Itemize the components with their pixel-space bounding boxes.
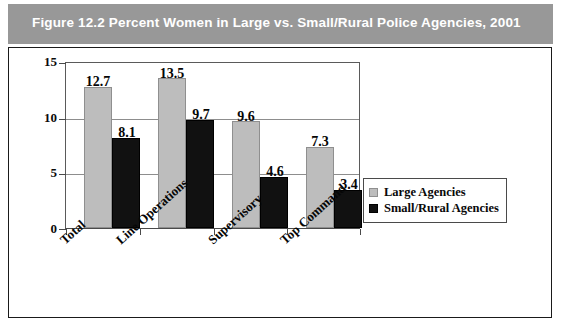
chart-frame: 15 10 5 0 12.7 8.1 (8, 47, 552, 318)
figure-title: Figure 12.2 Percent Women in Large vs. S… (32, 15, 521, 30)
legend-swatch-large-agencies (369, 188, 378, 197)
y-tick-label-15: 15 (27, 54, 57, 70)
legend-item-large-agencies[interactable]: Large Agencies (369, 185, 499, 200)
bar-label-large-total: 12.7 (76, 74, 120, 90)
legend-label-large-agencies: Large Agencies (384, 185, 466, 200)
y-tick-5 (59, 174, 66, 175)
y-tick-10 (59, 119, 66, 120)
y-tick-15 (59, 63, 66, 64)
bar-label-large-top-command: 7.3 (298, 134, 342, 150)
bar-small-line-operations[interactable] (186, 120, 214, 228)
bar-label-large-line-operations: 13.5 (150, 66, 194, 82)
legend-swatch-small-rural-agencies (369, 204, 378, 213)
bar-label-large-supervisory: 9.6 (224, 109, 268, 125)
bar-label-small-supervisory: 4.6 (254, 164, 296, 180)
y-axis: 15 10 5 0 (21, 62, 57, 229)
bar-label-small-line-operations: 9.7 (180, 107, 222, 123)
legend-item-small-rural-agencies[interactable]: Small/Rural Agencies (369, 201, 499, 216)
legend: Large Agencies Small/Rural Agencies (363, 178, 507, 223)
figure-root: Figure 12.2 Percent Women in Large vs. S… (0, 0, 565, 330)
legend-label-small-rural-agencies: Small/Rural Agencies (384, 201, 499, 216)
y-tick-label-5: 5 (27, 165, 57, 181)
bar-label-small-total: 8.1 (106, 125, 148, 141)
bar-large-total[interactable] (84, 87, 112, 228)
title-banner: Figure 12.2 Percent Women in Large vs. S… (8, 4, 553, 44)
y-tick-label-10: 10 (27, 110, 57, 126)
y-tick-label-0: 0 (27, 221, 57, 237)
x-tick-4 (360, 229, 361, 235)
